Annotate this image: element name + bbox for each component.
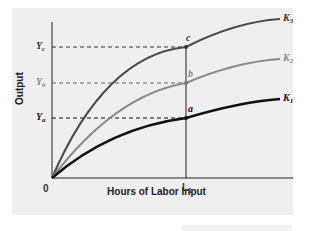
k3-sub: 3 [290,17,294,25]
l1-sub: 1 [188,187,192,194]
bottom-strip [182,225,292,231]
yb-sub: b [42,81,46,89]
point-b-label: b [188,68,193,79]
k1-label: K1 [283,92,293,105]
point-c-label: c [186,32,190,43]
point-a-label: a [188,103,193,114]
k3-label: K3 [283,12,293,25]
yc-sub: c [42,45,45,53]
point-c-marker [184,45,188,49]
k3-main: K [283,12,290,23]
y-axis-label: Output [14,72,25,105]
l1-tick-label: L1 [182,182,192,194]
k1-main: K [283,92,290,103]
k2-label: K2 [283,52,293,65]
yc-tick-label: Yc [36,40,45,53]
origin-label: 0 [43,183,49,194]
ya-sub: a [42,116,46,124]
k2-main: K [283,52,290,63]
point-a-marker [184,116,188,120]
yb-tick-label: Yb [36,76,46,89]
k2-sub: 2 [290,57,294,65]
ya-tick-label: Ya [36,111,46,124]
point-b-marker [184,81,188,85]
k1-sub: 1 [290,97,294,105]
